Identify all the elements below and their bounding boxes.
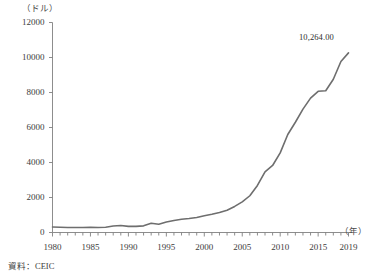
x-axis-unit-label: （年） — [340, 224, 367, 236]
x-axis-tick-label: 2019 — [329, 242, 369, 252]
x-axis-tick-label: 1990 — [108, 242, 148, 252]
chart-container: （ドル） （年） 10,264.00 020004000600080001000… — [0, 0, 369, 278]
y-axis-tick-label: 12000 — [5, 17, 45, 27]
x-axis-tick-label: 1985 — [70, 242, 110, 252]
y-axis-unit-label: （ドル） — [22, 1, 58, 13]
x-axis-tick-label: 1980 — [33, 242, 73, 252]
y-axis-tick-label: 6000 — [5, 122, 45, 132]
y-axis-tick-label: 8000 — [5, 87, 45, 97]
y-axis-tick-label: 2000 — [5, 192, 45, 202]
x-axis-tick-label: 2000 — [184, 242, 224, 252]
x-axis-tick-label: 2010 — [260, 242, 300, 252]
axes-group — [53, 23, 353, 233]
y-axis-tick-label: 4000 — [5, 157, 45, 167]
x-axis-tick-label: 2005 — [222, 242, 262, 252]
data-series-group — [53, 53, 349, 228]
y-axis-tick-label: 10000 — [5, 52, 45, 62]
y-axis-tick-label: 0 — [5, 227, 45, 237]
source-note: 資料：CEIC — [8, 259, 54, 271]
data-point-annotation: 10,264.00 — [299, 32, 334, 42]
axis-ticks-group — [49, 23, 349, 237]
x-axis-tick-label: 1995 — [146, 242, 186, 252]
